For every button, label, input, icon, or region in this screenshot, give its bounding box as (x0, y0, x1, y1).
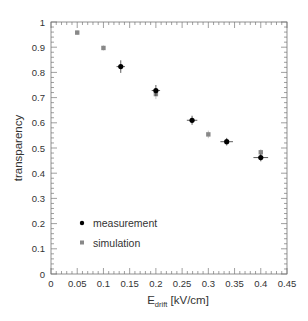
y-tick-label: 0.8 (32, 67, 45, 78)
data-point-simulation (206, 131, 210, 139)
data-point-measurement (253, 154, 268, 162)
y-tick-label: 0.7 (32, 92, 45, 103)
y-tick-label: 0.5 (32, 143, 45, 154)
plot-border (51, 22, 287, 274)
data-point-measurement (152, 85, 160, 96)
data-points (75, 30, 268, 161)
x-axis-label-subscript: drift (155, 300, 168, 309)
y-tick-labels: 00.10.20.30.40.50.60.70.80.91 (32, 17, 45, 280)
y-tick-label: 0.2 (32, 218, 45, 229)
x-tick-label: 0.2 (149, 278, 162, 289)
x-tick-labels: 00.050.10.150.20.250.30.350.40.45 (48, 278, 296, 289)
y-tick-label: 0.6 (32, 117, 45, 128)
y-axis-label: transparency (12, 115, 24, 182)
x-tick-label: 0.15 (120, 278, 139, 289)
legend-label-simulation: simulation (93, 237, 140, 249)
x-tick-label: 0.1 (97, 278, 110, 289)
plot-frame (51, 22, 287, 274)
x-axis-label: Edrift [kV/cm] (147, 294, 209, 309)
chart: 00.050.10.150.20.250.30.350.40.45 00.10.… (0, 0, 308, 321)
data-point-measurement (187, 116, 197, 125)
x-tick-label: 0.4 (254, 278, 267, 289)
legend-marker-simulation (80, 241, 84, 245)
x-tick-label: 0.3 (202, 278, 215, 289)
legend-marker-measurement (80, 221, 84, 225)
x-tick-label: 0.05 (68, 278, 87, 289)
data-point-measurement (117, 60, 125, 73)
data-point-measurement (220, 138, 233, 146)
legend-label-measurement: measurement (93, 217, 157, 229)
legend: measurement simulation (80, 217, 157, 249)
y-tick-label: 0.3 (32, 193, 45, 204)
y-tick-label: 0.1 (32, 243, 45, 254)
y-tick-label: 1 (40, 17, 45, 28)
x-tick-label: 0 (48, 278, 53, 289)
data-point-simulation (101, 45, 105, 50)
y-tick-label: 0.9 (32, 42, 45, 53)
y-tick-label: 0.4 (32, 168, 45, 179)
x-tick-label: 0.35 (225, 278, 244, 289)
x-tick-label: 0.45 (278, 278, 297, 289)
data-point-simulation (75, 30, 79, 34)
x-axis-label-unit: [kV/cm] (167, 294, 209, 306)
x-tick-label: 0.25 (173, 278, 192, 289)
y-tick-label: 0 (40, 269, 45, 280)
